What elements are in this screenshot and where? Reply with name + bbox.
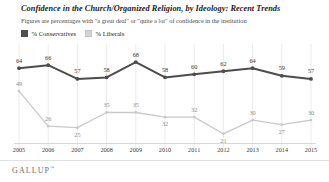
chart-title: Confidence in the Church/Organized Relig… [21, 4, 321, 14]
data-point [310, 119, 313, 122]
data-label: 25 [74, 131, 80, 138]
x-axis-label-2015: 2015 [305, 146, 317, 153]
data-point [76, 126, 79, 129]
x-axis-label-2013: 2013 [246, 146, 258, 153]
data-label: 57 [308, 67, 314, 74]
x-axis-label-2012: 2012 [217, 146, 229, 153]
data-label: 62 [220, 60, 226, 67]
data-label: 68 [133, 51, 139, 58]
data-point [46, 63, 50, 67]
legend-label-liberals: % Liberals [96, 30, 125, 37]
data-point [251, 119, 254, 122]
data-label: 30 [308, 109, 314, 116]
footer-divider [0, 160, 329, 161]
legend-swatch-conservatives [21, 30, 28, 37]
data-label: 49 [16, 80, 22, 87]
data-point [18, 90, 21, 93]
data-point [47, 125, 50, 128]
data-point [105, 111, 108, 114]
data-label: 32 [191, 106, 197, 113]
gallup-logo: GALLUP™ [12, 165, 54, 175]
chart-subtitle: Figures are percentages with "a great de… [21, 16, 321, 25]
x-axis-label-2005: 2005 [13, 146, 25, 153]
data-point [76, 77, 80, 81]
data-point [134, 111, 137, 114]
data-point [309, 77, 313, 81]
x-axis-label-2007: 2007 [71, 146, 83, 153]
x-axis-label-2009: 2009 [130, 146, 142, 153]
axis-baseline [14, 143, 316, 144]
x-axis-label-2010: 2010 [159, 146, 171, 153]
data-point [222, 132, 225, 135]
x-axis-label-2011: 2011 [188, 146, 200, 153]
data-point [280, 123, 283, 126]
data-label: 64 [250, 57, 256, 64]
data-point [251, 66, 255, 70]
x-axis-label-2008: 2008 [100, 146, 112, 153]
legend-label-conservatives: % Conservatives [32, 30, 77, 37]
data-point [193, 116, 196, 119]
data-label: 35 [133, 101, 139, 108]
data-point [164, 116, 167, 119]
gallup-chart-card: Confidence in the Church/Organized Relig… [0, 0, 329, 182]
data-point [280, 74, 284, 78]
legend-item-conservatives[interactable]: % Conservatives [21, 30, 76, 37]
line-chart-svg: 4926253535323221302730646657586858606264… [0, 44, 329, 148]
data-point [192, 72, 196, 76]
legend-item-liberals[interactable]: % Liberals [85, 30, 124, 37]
data-label: 35 [104, 101, 110, 108]
legend-swatch-liberals [85, 30, 92, 37]
data-label: 58 [162, 66, 168, 73]
data-label: 57 [74, 67, 80, 74]
data-label: 60 [191, 63, 197, 70]
data-label: 27 [279, 128, 285, 135]
data-point [134, 60, 138, 64]
data-label: 59 [279, 64, 285, 71]
x-axis-label-2014: 2014 [276, 146, 288, 153]
data-label: 32 [162, 120, 168, 127]
data-label: 26 [45, 115, 51, 122]
x-axis-year-labels: 2005200620072008200920102011201220132014… [0, 146, 329, 158]
data-label: 58 [104, 66, 110, 73]
data-point [222, 69, 226, 73]
chart-plot-area: 4926253535323221302730646657586858606264… [0, 44, 329, 148]
data-label: 30 [250, 109, 256, 116]
data-label: 66 [45, 54, 51, 61]
x-axis-label-2006: 2006 [42, 146, 54, 153]
trademark-icon: ™ [50, 165, 54, 170]
data-point [17, 66, 21, 70]
data-point [105, 75, 109, 79]
data-point [163, 75, 167, 79]
gallup-wordmark: GALLUP [12, 166, 50, 175]
data-label: 64 [16, 57, 22, 64]
chart-legend: % Conservatives % Liberals [21, 30, 124, 37]
